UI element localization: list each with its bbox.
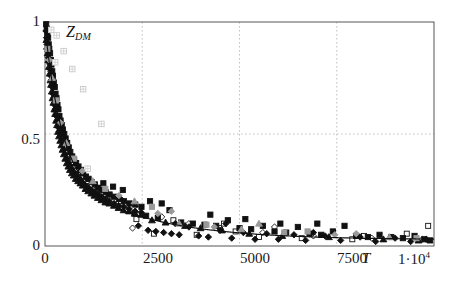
x-tick-label-7500: 7500 <box>322 250 382 267</box>
data-point-square <box>103 186 108 191</box>
data-point-diamond <box>291 232 297 238</box>
data-point-square <box>315 221 320 226</box>
y-tick-label-1: 1 <box>4 13 40 30</box>
data-point-diamond <box>176 232 182 238</box>
y-axis-subscript: DM <box>75 31 91 42</box>
x-tick-label-10000: 1·104 <box>398 250 430 268</box>
data-point-square <box>110 184 115 189</box>
data-point-diamond <box>145 227 151 233</box>
data-point-square <box>243 217 248 222</box>
x-exponent-power: 4 <box>426 250 431 260</box>
data-point-square <box>204 222 209 227</box>
data-point-diamond <box>195 233 201 239</box>
data-point-square <box>282 230 287 235</box>
data-point-square <box>147 199 152 204</box>
x-axis-title: T <box>362 250 370 267</box>
data-point-square <box>342 223 347 228</box>
x-tick-label-5000: 5000 <box>225 250 285 267</box>
scatter-plot-canvas <box>0 0 466 282</box>
data-point-square <box>414 236 419 241</box>
data-point-diamond <box>229 235 235 241</box>
data-point-square <box>295 224 300 229</box>
x-tick-label-2500: 2500 <box>128 250 188 267</box>
data-point-square <box>208 212 213 217</box>
data-point-square <box>101 181 106 186</box>
x-exponent-base: 1·10 <box>398 251 426 267</box>
data-point-square <box>149 204 154 209</box>
data-point-square <box>305 229 310 234</box>
y-tick-label-0-5: 0.5 <box>4 131 40 148</box>
data-point-square <box>426 223 431 228</box>
data-point-square <box>159 201 164 206</box>
x-tick-label-0: 0 <box>30 250 60 267</box>
data-point-square <box>278 221 283 226</box>
data-point-square <box>377 232 382 237</box>
figure-container: 1 0.5 0 0 2500 5000 7500 1·104 T ZDM <box>0 0 466 282</box>
y-axis-title: ZDM <box>66 23 91 42</box>
data-point-diamond <box>205 234 211 240</box>
data-point-diamond <box>160 229 166 235</box>
data-point-diamond <box>168 230 174 236</box>
y-axis-symbol: Z <box>66 23 75 40</box>
data-point-square <box>120 187 125 192</box>
